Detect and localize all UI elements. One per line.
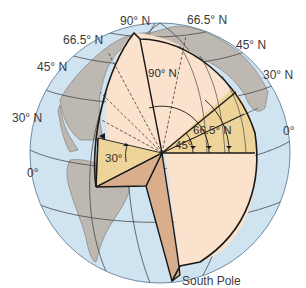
label-angle-66: 66.5° N (193, 125, 231, 137)
label-left-45: 45° N (37, 61, 67, 73)
label-angle-90: 90° N (148, 68, 177, 80)
label-left-66: 66.5° N (63, 34, 103, 46)
label-angle-30: 30° (105, 153, 122, 165)
label-north-pole: 90° N (120, 15, 150, 27)
label-right-45: 45° N (236, 39, 266, 51)
label-right-equator: 0° (283, 125, 294, 137)
label-left-30: 30° N (12, 112, 42, 124)
label-angle-45: 45° (175, 140, 192, 152)
label-south-pole: South Pole (182, 275, 241, 287)
label-left-equator: 0° (27, 167, 38, 179)
label-right-66: 66.5° N (187, 14, 227, 26)
label-right-30: 30° N (263, 69, 293, 81)
latitude-globe-diagram: 90° N 66.5° N 45° N 30° N 0° 66.5° N 45°… (0, 0, 306, 288)
